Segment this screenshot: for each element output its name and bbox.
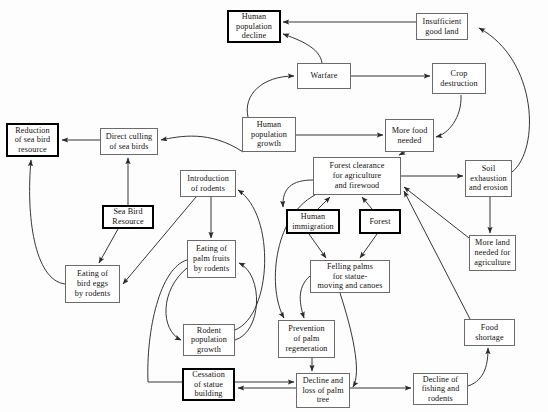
edge-more-food-needed-to-forest-clearance [399,152,405,155]
node-forest-clearance[interactable]: Forest clearance for agriculture and fir… [313,157,401,195]
node-label-decline-of-fishing-and-rodents: Decline of fishing and rodents [422,375,460,404]
edge-soil-exhaustion-and-erosion-to-insufficient-good-land [479,28,529,172]
node-reduction-of-sea-bird-resource[interactable]: Reduction of sea bird resource [6,123,59,157]
node-warfare[interactable]: Warfare [297,63,351,89]
edge-food-shortage-to-forest-clearance [404,191,470,319]
node-soil-exhaustion-and-erosion[interactable]: Soil exhaustion and erosion [465,160,512,197]
node-label-crop-destruction: Crop destruction [440,69,477,88]
node-label-rodent-population-growth: Rodent population growth [191,326,227,355]
node-label-more-food-needed: More food needed [392,126,428,145]
node-cessation-of-statue-building[interactable]: Cessation of statue building [182,368,235,401]
node-introduction-of-rodents[interactable]: Introduction of rodents [180,170,236,197]
node-decline-and-loss-of-palm-tree[interactable]: Decline and loss of palm tree [296,373,350,408]
node-eating-of-bird-eggs-by-rodents[interactable]: Eating of bird eggs by rodents [65,265,120,303]
node-label-cessation-of-statue-building: Cessation of statue building [192,370,225,399]
node-more-food-needed[interactable]: More food needed [385,119,434,152]
node-label-insufficient-good-land: Insufficient good land [423,17,462,36]
node-label-forest-clearance: Forest clearance for agriculture and fir… [329,161,384,190]
edge-forest-to-felling-palms [360,234,377,258]
node-label-human-population-growth: Human population growth [251,120,287,149]
node-label-human-immigration: Human immigration [292,212,334,231]
node-label-food-shortage: Food shortage [475,323,504,342]
edge-warfare-to-human-population-decline [283,34,322,63]
node-label-warfare: Warfare [311,71,338,81]
node-prevention-of-palm-regeneration[interactable]: Prevention of palm regeneration [278,320,335,358]
edge-forest-clearance-to-human-immigration [283,180,313,207]
edge-felling-palms-to-prevention-of-palm-regeneration [300,276,310,318]
node-label-prevention-of-palm-regeneration: Prevention of palm regeneration [285,324,327,353]
node-human-population-decline[interactable]: Human population decline [227,10,281,43]
diagram-edges-layer [0,0,548,412]
node-human-immigration[interactable]: Human immigration [286,209,340,234]
node-label-eating-of-palm-fruits-by-rodents: Eating of palm fruits by rodents [193,244,230,273]
node-label-reduction-of-sea-bird-resource: Reduction of sea bird resource [15,126,51,155]
node-label-decline-and-loss-of-palm-tree: Decline and loss of palm tree [302,376,343,405]
causal-diagram-canvas: Human population declineInsufficient goo… [0,0,548,412]
node-label-sea-bird-resource: Sea Bird Resource [112,207,143,226]
edge-sea-bird-resource-to-eating-of-bird-eggs-by-rodents [99,229,118,263]
edge-human-population-growth-to-warfare [247,76,294,117]
node-forest[interactable]: Forest [359,209,401,234]
edge-human-population-growth-to-direct-culling-of-sea-birds [161,136,243,152]
node-label-soil-exhaustion-and-erosion: Soil exhaustion and erosion [469,164,508,193]
node-rodent-population-growth[interactable]: Rodent population growth [183,324,235,356]
node-direct-culling-of-sea-birds[interactable]: Direct culling of sea birds [100,128,158,155]
edge-forest-to-forest-clearance [362,197,372,209]
node-label-forest: Forest [369,217,390,227]
node-decline-of-fishing-and-rodents[interactable]: Decline of fishing and rodents [413,373,468,405]
edge-human-immigration-to-forest-clearance [318,197,330,209]
node-label-introduction-of-rodents: Introduction of rodents [187,174,229,193]
node-label-felling-palms: Felling palms for statue- moving and can… [318,262,383,291]
node-label-more-land-needed-for-agriculture: More land needed for agriculture [474,238,511,267]
edge-rodent-population-growth-to-introduction-of-rodents [235,190,265,330]
node-sea-bird-resource[interactable]: Sea Bird Resource [102,205,154,229]
edge-crop-destruction-to-more-food-needed [436,95,461,137]
node-human-population-growth[interactable]: Human population growth [242,117,296,152]
node-food-shortage[interactable]: Food shortage [464,319,515,346]
edge-more-land-needed-for-agriculture-to-forest-clearance [404,187,469,238]
node-label-direct-culling-of-sea-birds: Direct culling of sea birds [106,132,153,151]
edge-human-immigration-to-felling-palms [309,234,326,258]
node-more-land-needed-for-agriculture[interactable]: More land needed for agriculture [469,235,516,271]
node-label-eating-of-bird-eggs-by-rodents: Eating of bird eggs by rodents [75,269,110,298]
node-insufficient-good-land[interactable]: Insufficient good land [416,13,468,40]
edge-decline-of-fishing-and-rodents-to-food-shortage [468,348,488,386]
node-crop-destruction[interactable]: Crop destruction [432,63,486,94]
edge-eating-of-palm-fruits-by-rodents-to-decline-and-loss-of-palm-tree [148,260,294,382]
node-label-human-population-decline: Human population decline [236,12,272,41]
edge-eating-of-bird-eggs-by-rodents-to-reduction-of-sea-bird-resource [30,160,65,284]
node-felling-palms[interactable]: Felling palms for statue- moving and can… [310,260,390,293]
node-eating-of-palm-fruits-by-rodents[interactable]: Eating of palm fruits by rodents [187,240,236,278]
